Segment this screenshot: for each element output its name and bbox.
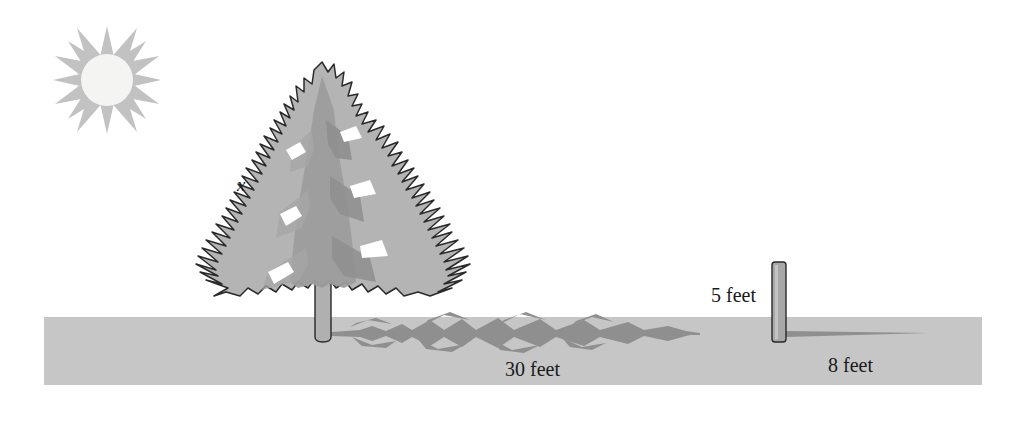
pole-body bbox=[772, 262, 786, 342]
label-pole-height: 5 feet bbox=[711, 285, 756, 305]
label-pole-shadow-length: 8 feet bbox=[828, 355, 873, 375]
label-tree-height: x bbox=[237, 175, 245, 194]
pole-highlight bbox=[775, 265, 778, 339]
diagram-canvas: x 30 feet 5 feet 8 feet bbox=[0, 0, 1009, 421]
label-tree-shadow-length: 30 feet bbox=[505, 359, 560, 379]
